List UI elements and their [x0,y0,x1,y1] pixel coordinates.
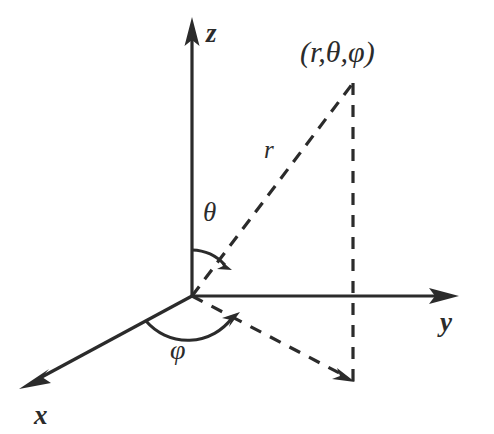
phi-label: φ [170,334,186,365]
z-axis-label: z [205,18,217,48]
diagram-background [0,0,494,434]
point-coordinates-label: (r,θ,φ) [300,35,375,69]
y-axis-label: y [437,307,453,337]
theta-label: θ [203,197,216,227]
radius-label: r [264,136,274,163]
spherical-coordinate-diagram: z y x r θ φ (r,θ,φ) [0,0,494,434]
x-axis-label: x [33,400,48,430]
